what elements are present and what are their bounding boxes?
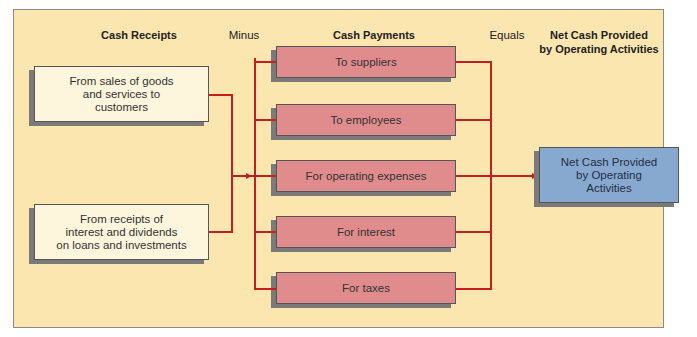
diagram-panel: Cash Receipts Minus Cash Payments Equals… (13, 9, 664, 328)
connector (209, 94, 233, 96)
header-minus: Minus (214, 28, 274, 42)
receipt-box-sales: From sales of goods and services to cust… (34, 66, 209, 122)
header-net-cash: Net Cash Provided by Operating Activitie… (534, 28, 664, 56)
connector (456, 231, 492, 233)
result-box-net-cash: Net Cash Provided by Operating Activitie… (539, 147, 679, 203)
connector (254, 61, 276, 63)
connector (456, 288, 492, 290)
payment-box-interest: For interest (276, 216, 456, 248)
receipt-interest-line3: on loans and investments (56, 239, 186, 252)
receipt-sales-line2: and services to (83, 88, 160, 101)
connector (254, 175, 276, 177)
result-line2: by Operating (576, 169, 642, 182)
header-net-cash-line1: Net Cash Provided (534, 28, 664, 42)
connector (254, 231, 276, 233)
result-line3: Activities (586, 182, 631, 195)
header-cash-payments: Cash Payments (314, 28, 434, 42)
connector (490, 175, 538, 177)
connector (231, 94, 233, 233)
arrow-right-icon (246, 173, 252, 179)
arrow-right-icon (532, 173, 538, 179)
payment-box-operating-expenses: For operating expenses (276, 160, 456, 192)
receipt-box-interest: From receipts of interest and dividends … (34, 204, 209, 260)
result-line1: Net Cash Provided (561, 156, 658, 169)
payment-box-taxes: For taxes (276, 272, 456, 304)
connector (456, 119, 492, 121)
connector (254, 288, 276, 290)
connector (456, 175, 492, 177)
header-cash-receipts: Cash Receipts (74, 28, 204, 42)
receipt-interest-line1: From receipts of (80, 213, 163, 226)
receipt-sales-line1: From sales of goods (69, 75, 173, 88)
connector (254, 58, 256, 290)
connector (209, 231, 233, 233)
header-equals: Equals (477, 28, 537, 42)
receipt-interest-line2: interest and dividends (66, 226, 178, 239)
connector (254, 119, 276, 121)
header-net-cash-line2: by Operating Activities (534, 42, 664, 56)
payment-box-suppliers: To suppliers (276, 46, 456, 78)
payment-box-employees: To employees (276, 104, 456, 136)
connector (456, 61, 492, 63)
receipt-sales-line3: customers (95, 101, 148, 114)
